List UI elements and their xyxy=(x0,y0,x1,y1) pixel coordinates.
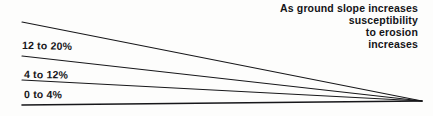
slope-erosion-wedge-diagram: 12 to 20% 4 to 12% 0 to 4% As ground slo… xyxy=(0,0,433,116)
slope-class-label-0-to-4: 0 to 4% xyxy=(24,88,62,100)
slope-line-divider-12-20 xyxy=(22,56,422,101)
caption-line-2: susceptibility xyxy=(280,14,418,26)
caption-line-4: increases xyxy=(280,38,418,50)
slope-class-label-4-to-12: 4 to 12% xyxy=(24,68,68,81)
slope-class-label-12-to-20: 12 to 20% xyxy=(22,39,72,52)
erosion-caption: As ground slope increases susceptibility… xyxy=(280,2,418,50)
slope-line-divider-4-12 xyxy=(22,80,422,101)
caption-line-3: to erosion xyxy=(280,26,418,38)
slope-line-baseline xyxy=(22,101,422,105)
caption-line-1: As ground slope increases xyxy=(280,2,418,14)
